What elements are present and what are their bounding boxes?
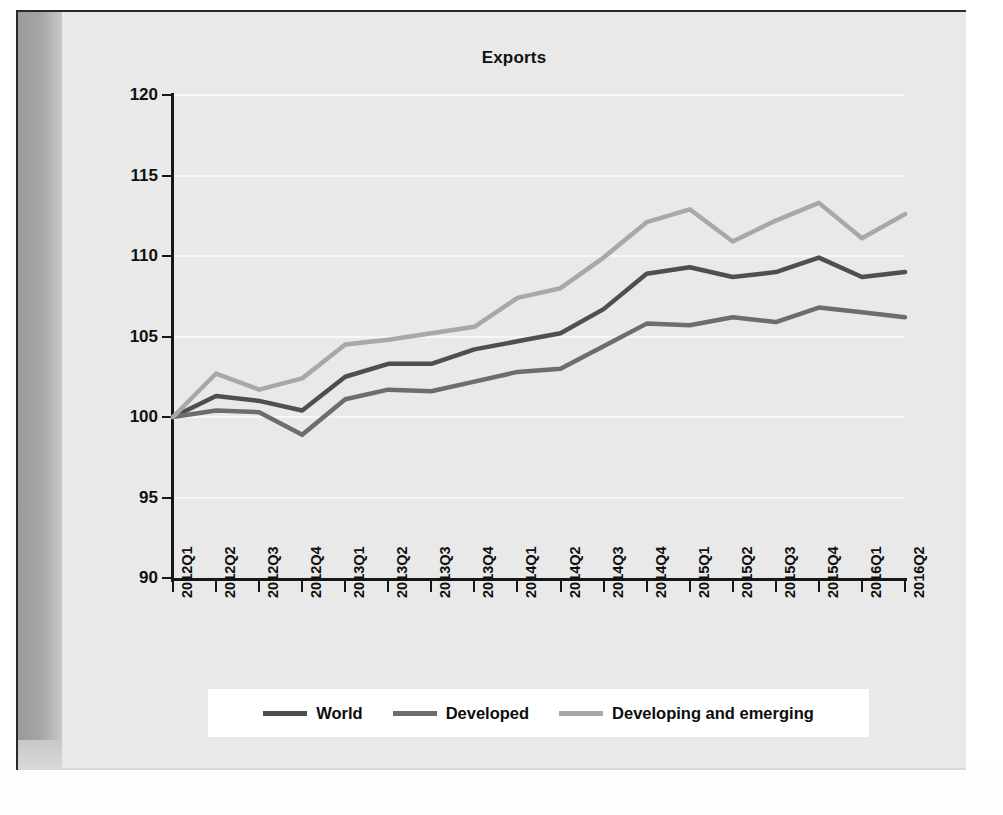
chart-legend: WorldDevelopedDeveloping and emerging (208, 689, 869, 737)
legend-label: Developed (446, 704, 529, 723)
legend-item[interactable]: Developed (393, 704, 529, 723)
legend-label: World (316, 704, 362, 723)
series-line (173, 258, 905, 417)
legend-swatch-icon (263, 711, 307, 716)
figure-left-shadow (18, 12, 62, 768)
figure-root: Exports 9095100105110115120 2012Q12012Q2… (0, 0, 1003, 815)
series-lines (62, 12, 966, 768)
legend-swatch-icon (559, 711, 603, 716)
series-line (173, 308, 905, 435)
legend-label: Developing and emerging (612, 704, 814, 723)
legend-item[interactable]: World (263, 704, 362, 723)
legend-swatch-icon (393, 711, 437, 716)
series-line (173, 203, 905, 417)
chart-panel: Exports 9095100105110115120 2012Q12012Q2… (62, 12, 966, 768)
legend-item[interactable]: Developing and emerging (559, 704, 814, 723)
